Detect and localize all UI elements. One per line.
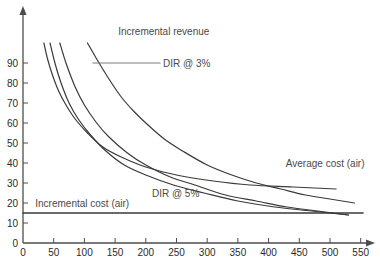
x-axis-tick-label: 250 bbox=[168, 247, 185, 258]
y-axis-tick-label: 0 bbox=[12, 238, 18, 249]
incremental-revenue-cost-chart: 050100150200250300350400450500550 010203… bbox=[0, 0, 380, 261]
series-curve bbox=[87, 43, 354, 203]
chart-container: 050100150200250300350400450500550 010203… bbox=[0, 0, 380, 261]
series-label-incremental-revenue: Incremental revenue bbox=[118, 26, 210, 37]
axes-group: 050100150200250300350400450500550 010203… bbox=[7, 6, 375, 258]
x-axis-tick-label: 200 bbox=[137, 247, 154, 258]
x-axis-tick-label: 550 bbox=[352, 247, 369, 258]
y-axis-tick-label: 30 bbox=[7, 178, 19, 189]
y-axis-tick-label: 20 bbox=[7, 198, 19, 209]
x-axis-tick-label: 300 bbox=[199, 247, 216, 258]
y-axis-tick-label: 80 bbox=[7, 78, 19, 89]
x-axis-tick-label: 350 bbox=[230, 247, 247, 258]
y-axis-tick-label: 90 bbox=[7, 58, 19, 69]
x-axis-tick-label: 500 bbox=[322, 247, 339, 258]
y-axis-tick-label: 50 bbox=[7, 138, 19, 149]
y-axis-tick-label: 70 bbox=[7, 98, 19, 109]
series-label-dir-5: DIR @ 5% bbox=[152, 188, 199, 199]
x-axis-tick-label: 0 bbox=[20, 247, 26, 258]
x-axis-tick-label: 400 bbox=[260, 247, 277, 258]
series-label-incremental-cost-air: Incremental cost (air) bbox=[35, 198, 129, 209]
x-axis-arrow bbox=[366, 239, 375, 246]
annotation-group: Incremental revenueDIR @ 3%DIR @ 5%Avera… bbox=[35, 26, 364, 209]
y-axis-tick-label: 40 bbox=[7, 158, 19, 169]
series-label-average-cost-air: Average cost (air) bbox=[286, 158, 365, 169]
x-axis-tick-label: 450 bbox=[291, 247, 308, 258]
x-axis-tick-label: 150 bbox=[107, 247, 124, 258]
series-label-dir-3: DIR @ 3% bbox=[163, 58, 210, 69]
y-axis-tick-label: 60 bbox=[7, 118, 19, 129]
x-axis-tick-label: 50 bbox=[48, 247, 60, 258]
y-axis-arrow bbox=[19, 6, 26, 15]
y-axis-tick-label: 10 bbox=[7, 218, 19, 229]
x-axis-tick-label: 100 bbox=[76, 247, 93, 258]
